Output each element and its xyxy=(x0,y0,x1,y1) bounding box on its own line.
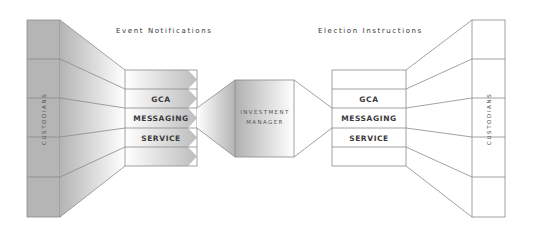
right-gca-label: GCA xyxy=(359,95,378,104)
gca-flow-diagram: CUSTODIANS GCA MESSAGING SERVICE Event N… xyxy=(0,0,534,231)
right-fan-connector xyxy=(406,20,472,217)
right-service-label: SERVICE xyxy=(349,134,389,143)
left-fan-connector xyxy=(60,20,125,217)
left-gca-box: GCA MESSAGING SERVICE xyxy=(125,70,197,166)
investment-manager-line1: INVESTMENT xyxy=(240,109,290,115)
event-notifications-caption: Event Notifications xyxy=(116,27,213,35)
left-im-connector xyxy=(197,80,235,157)
right-messaging-label: MESSAGING xyxy=(341,114,397,123)
right-custodians-column: CUSTODIANS xyxy=(472,20,505,217)
left-gca-label: GCA xyxy=(151,95,170,104)
right-gca-box: GCA MESSAGING SERVICE xyxy=(332,70,406,166)
left-custodians-column: CUSTODIANS xyxy=(27,20,60,217)
election-instructions-caption: Election Instructions xyxy=(318,27,423,35)
left-service-label: SERVICE xyxy=(141,134,181,143)
investment-manager-box: INVESTMENT MANAGER xyxy=(235,80,294,157)
left-custodians-label: CUSTODIANS xyxy=(41,93,47,145)
right-im-connector xyxy=(294,80,332,157)
investment-manager-line2: MANAGER xyxy=(246,119,284,125)
right-custodians-label: CUSTODIANS xyxy=(486,93,492,145)
left-messaging-label: MESSAGING xyxy=(133,114,189,123)
